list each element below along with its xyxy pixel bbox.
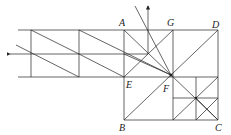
left-strip — [10, 30, 218, 77]
label-D: D — [211, 19, 220, 30]
label-A: A — [118, 17, 126, 28]
label-G: G — [167, 17, 174, 28]
geometry-diagram: A G D E F B C — [0, 0, 231, 135]
label-E: E — [125, 79, 132, 90]
rays — [135, 6, 171, 75]
label-F: F — [162, 83, 170, 94]
point-F — [169, 73, 172, 76]
label-C: C — [215, 122, 222, 133]
point-center-small — [195, 97, 197, 99]
label-B: B — [119, 122, 125, 133]
